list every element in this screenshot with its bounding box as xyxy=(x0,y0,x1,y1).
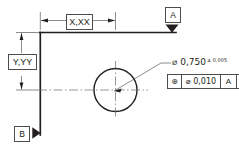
dimension-arrow-top xyxy=(20,33,24,40)
horizontal-dimension-box[interactable]: X,XX xyxy=(66,14,93,30)
vertical-dimension-label: Y,YY xyxy=(13,57,32,67)
position-feature-control-frame[interactable]: ⊕ ⌀ 0,010 A B xyxy=(167,74,239,89)
datum-b-triangle xyxy=(32,127,40,139)
primary-datum-cell: A xyxy=(221,75,237,88)
datum-b-box[interactable]: B xyxy=(14,126,30,142)
datum-a-letter: A xyxy=(170,10,176,20)
leader-line-diagonal xyxy=(114,63,161,91)
position-symbol-icon: ⊕ xyxy=(168,75,182,88)
dimension-arrow-right xyxy=(108,19,115,23)
vertical-dimension-box[interactable]: Y,YY xyxy=(8,54,37,70)
hole-diameter-callout[interactable]: ⌀ 0,750 ± 0,005 xyxy=(172,57,227,67)
dimension-arrow-bottom xyxy=(20,83,24,90)
datum-a-box[interactable]: A xyxy=(165,7,181,23)
horizontal-dimension-label: X,XX xyxy=(69,17,90,27)
drawing-canvas: X,XX Y,YY A B ⌀ 0,750 ± 0,005 ⊕ ⌀ 0,010 … xyxy=(0,0,239,149)
hole-diameter-text: ⌀ 0,750 xyxy=(172,57,206,67)
datum-a-triangle xyxy=(166,25,179,33)
position-tolerance-value: ⌀ 0,010 xyxy=(182,75,221,88)
datum-b-letter: B xyxy=(19,129,25,139)
secondary-datum-cell: B xyxy=(237,75,239,88)
dimension-arrow-left xyxy=(41,19,48,23)
hole-tolerance-text: ± 0,005 xyxy=(207,57,227,63)
